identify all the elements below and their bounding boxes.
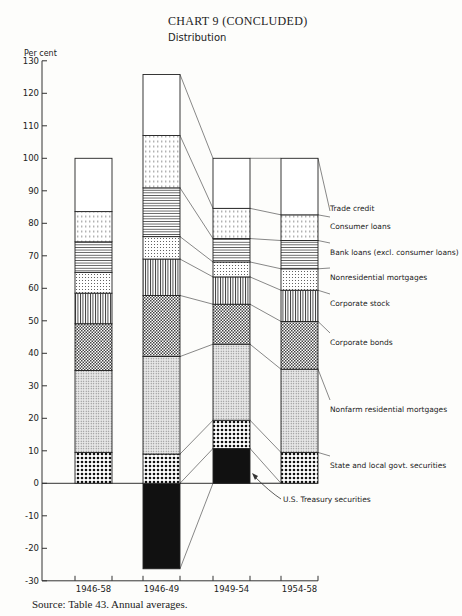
- segment: [143, 74, 180, 135]
- connector-line: [180, 344, 213, 356]
- legend-label: Bank loans (excl. consumer loans): [330, 248, 459, 257]
- x-tick-label: 1954-58: [282, 584, 318, 594]
- y-tick-label: 80: [28, 218, 39, 228]
- segment: [143, 454, 180, 483]
- segment: [143, 295, 180, 356]
- segment: [281, 452, 318, 483]
- legend-label: Nonfarm residential mortgages: [330, 405, 447, 414]
- y-tick-label: 50: [28, 316, 39, 326]
- segment: [213, 262, 250, 277]
- y-tick-label: 130: [23, 56, 39, 66]
- segment: [143, 259, 180, 295]
- x-axis: 1946-581946-491949-541954-58: [42, 576, 318, 594]
- bars: [75, 74, 318, 568]
- y-tick-label: -20: [25, 543, 39, 553]
- bar-1954-58: [281, 158, 318, 483]
- leader-line: [318, 369, 330, 400]
- legend-label: Consumer loans: [330, 222, 391, 231]
- connector-line: [250, 239, 281, 241]
- segment: [281, 215, 318, 241]
- x-tick-label: 1949-54: [214, 584, 250, 594]
- connector-line: [180, 259, 213, 277]
- y-tick-label: 30: [28, 381, 39, 391]
- segment: [143, 357, 180, 455]
- segment: [213, 449, 250, 484]
- leader-line: [318, 158, 330, 211]
- y-tick-label: 110: [23, 121, 39, 131]
- segment: [143, 237, 180, 259]
- segment: [143, 188, 180, 237]
- y-tick-label: 10: [28, 446, 39, 456]
- legend-label: Corporate bonds: [330, 338, 393, 347]
- connector-line: [180, 483, 213, 568]
- leader-line: [318, 321, 330, 333]
- segment: [213, 277, 250, 304]
- leader-line: [318, 241, 330, 243]
- segment: [75, 324, 112, 371]
- leader-line: [318, 268, 330, 269]
- connector-line: [250, 344, 281, 369]
- segment: [213, 208, 250, 238]
- bar-1946-58: [75, 158, 112, 483]
- leader-line: [318, 215, 330, 217]
- segment: [75, 371, 112, 453]
- segment: [143, 483, 180, 568]
- connector-line: [180, 237, 213, 262]
- segment: [281, 158, 318, 215]
- x-tick-label: 1946-49: [144, 584, 180, 594]
- leader-line: [318, 452, 330, 456]
- y-tick-label: 40: [28, 348, 39, 358]
- bar-1946-49: [143, 74, 180, 568]
- connector-line: [250, 277, 281, 290]
- segment: [213, 239, 250, 262]
- segment: [75, 242, 112, 273]
- segment: [213, 420, 250, 448]
- connector-line: [180, 295, 213, 304]
- y-tick-label: 100: [23, 153, 39, 163]
- segment: [213, 158, 250, 208]
- x-tick-label: 1946-58: [76, 584, 112, 594]
- segment: [281, 241, 318, 269]
- y-tick-label: 70: [28, 251, 39, 261]
- segment: [213, 344, 250, 420]
- connector-line: [180, 420, 213, 454]
- bar-1949-54: [213, 158, 250, 483]
- y-tick-label: 0: [34, 478, 39, 488]
- segment: [281, 290, 318, 321]
- connector-line: [180, 449, 213, 484]
- connector-line: [250, 420, 281, 452]
- connector-line: [250, 304, 281, 321]
- segment: [143, 136, 180, 188]
- connector-line: [250, 208, 281, 215]
- legend-label: State and local govt. securities: [330, 461, 446, 470]
- segment: [75, 452, 112, 483]
- y-tick-label: 60: [28, 283, 39, 293]
- segment: [281, 369, 318, 452]
- connector-line: [250, 262, 281, 269]
- segment: [75, 293, 112, 324]
- arrow-icon: [254, 476, 281, 499]
- leader-line: [318, 290, 330, 294]
- y-tick-label: 90: [28, 186, 39, 196]
- segment: [75, 272, 112, 293]
- legend-label: Trade credit: [329, 204, 374, 213]
- segment: [213, 304, 250, 344]
- segment: [281, 321, 318, 369]
- segment: [75, 212, 112, 242]
- legend-label-treasury: U.S. Treasury securities: [283, 495, 371, 504]
- y-tick-label: -10: [25, 511, 39, 521]
- legend-label: Corporate stock: [330, 299, 390, 308]
- y-tick-label: 120: [23, 88, 39, 98]
- source-note: Source: Table 43. Annual averages.: [32, 598, 187, 610]
- y-tick-label: 20: [28, 413, 39, 423]
- segment: [281, 269, 318, 290]
- y-tick-label: -30: [25, 576, 39, 586]
- stacked-bar-chart: -30-20-100102030405060708090100110120130…: [0, 0, 462, 616]
- connector-line: [180, 188, 213, 239]
- legend-label: Nonresidential mortgages: [330, 273, 427, 282]
- segment: [75, 158, 112, 211]
